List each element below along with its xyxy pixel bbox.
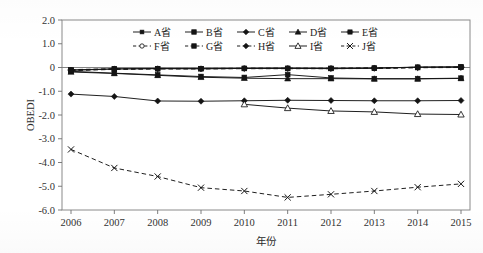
- legend-label: E省: [362, 26, 378, 38]
- legend-label: D省: [310, 26, 327, 38]
- x-tick-label: 2011: [277, 217, 298, 228]
- y-tick-label: -5.0: [38, 181, 55, 192]
- data-point-marker: [140, 30, 144, 34]
- x-tick-label: 2008: [147, 217, 168, 228]
- chart-figure: 2.01.00-1.0-2.0-3.0-4.0-5.0-6.0 20062007…: [0, 0, 483, 253]
- x-tick-label: 2013: [364, 217, 385, 228]
- legend-label: F省: [154, 40, 170, 52]
- x-tick-label: 2009: [191, 217, 212, 228]
- legend-label: B省: [206, 26, 223, 38]
- y-tick-label: -6.0: [38, 205, 55, 216]
- y-tick-label: 1.0: [42, 38, 55, 49]
- data-point-marker: [192, 30, 197, 35]
- chart-background: [0, 0, 483, 253]
- y-tick-label: -3.0: [38, 133, 55, 144]
- legend-label: J省: [362, 40, 376, 52]
- data-point-marker: [347, 30, 354, 34]
- legend-label: A省: [154, 26, 171, 38]
- legend-label: H省: [258, 40, 275, 52]
- x-tick-label: 2015: [451, 217, 472, 228]
- data-point-marker: [192, 44, 197, 49]
- x-tick-label: 2014: [407, 217, 429, 228]
- y-tick-label: 0: [50, 62, 55, 73]
- legend-label: G省: [206, 40, 223, 52]
- x-tick-label: 2010: [234, 217, 255, 228]
- y-tick-label: 2.0: [42, 15, 55, 26]
- y-tick-label: -4.0: [38, 157, 55, 168]
- x-tick-label: 2007: [104, 217, 125, 228]
- data-point-marker: [140, 44, 144, 48]
- line-chart: 2.01.00-1.0-2.0-3.0-4.0-5.0-6.0 20062007…: [0, 0, 483, 253]
- y-tick-label: -1.0: [38, 86, 55, 97]
- legend-label: C省: [258, 26, 275, 38]
- x-tick-label: 2006: [61, 217, 82, 228]
- y-axis-title: OBEDI: [25, 98, 36, 131]
- x-tick-label: 2012: [321, 217, 342, 228]
- legend-label: I省: [310, 40, 323, 52]
- x-axis-title: 年份: [256, 235, 277, 247]
- y-tick-label: -2.0: [38, 110, 55, 121]
